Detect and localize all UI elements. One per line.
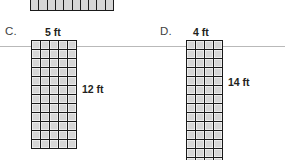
grid-cell — [50, 122, 58, 130]
grid-cell — [81, 0, 88, 10]
grid-cell — [187, 113, 195, 121]
grid-cell — [205, 140, 213, 148]
grid-cell — [41, 95, 49, 103]
height-label-d: 14 ft — [228, 77, 250, 88]
grid-cell — [68, 86, 76, 94]
grid-cell — [205, 59, 213, 67]
grid-cell — [68, 131, 76, 139]
grid-c — [31, 40, 77, 149]
grid-cell — [196, 104, 204, 112]
grid-cell — [196, 131, 204, 139]
grid-cell — [205, 104, 213, 112]
grid-cell — [41, 68, 49, 76]
grid-cell — [89, 0, 96, 10]
grid-cell — [32, 59, 40, 67]
grid-cell — [32, 95, 40, 103]
grid-cell — [50, 95, 58, 103]
grid-cell — [205, 77, 213, 85]
grid-cell — [187, 59, 195, 67]
worksheet-figure: C. 5 ft 12 ft D. 4 ft 14 ft — [0, 0, 285, 160]
grid-cell — [32, 77, 40, 85]
grid-cell — [32, 122, 40, 130]
grid-cell — [41, 86, 49, 94]
grid-cell — [32, 50, 40, 58]
grid-cell — [41, 113, 49, 121]
grid-cell — [41, 104, 49, 112]
grid-cell — [187, 149, 195, 157]
grid-cell — [50, 140, 58, 148]
grid-cell — [50, 41, 58, 49]
grid-cell — [214, 95, 222, 103]
grid-cell — [32, 41, 40, 49]
grid-cell — [214, 131, 222, 139]
grid-cell — [59, 86, 67, 94]
grid-cell — [50, 68, 58, 76]
item-letter-c: C. — [5, 26, 17, 38]
grid-cell — [41, 59, 49, 67]
grid-d — [186, 40, 223, 160]
grid-cell — [214, 113, 222, 121]
grid-cell — [41, 140, 49, 148]
grid-cell — [32, 68, 40, 76]
grid-cell — [187, 68, 195, 76]
grid-cell — [31, 0, 38, 10]
grid-cell — [50, 113, 58, 121]
grid-cell — [187, 50, 195, 58]
grid-cell — [50, 104, 58, 112]
grid-cell — [187, 104, 195, 112]
grid-cell — [41, 122, 49, 130]
grid-cell — [41, 50, 49, 58]
height-label-c: 12 ft — [82, 84, 104, 95]
width-label-d: 4 ft — [193, 27, 209, 38]
grid-cell — [48, 0, 55, 10]
grid-cell — [196, 140, 204, 148]
grid-cell — [56, 0, 63, 10]
grid-cell — [59, 131, 67, 139]
grid-cell — [196, 158, 204, 160]
grid-cell — [214, 77, 222, 85]
grid-cell — [41, 41, 49, 49]
grid-cell — [205, 131, 213, 139]
grid-cell — [196, 95, 204, 103]
grid-cell — [59, 122, 67, 130]
grid-cell — [196, 122, 204, 130]
grid-cell — [68, 59, 76, 67]
grid-cell — [97, 0, 104, 10]
grid-cell — [50, 131, 58, 139]
grid-cell — [50, 59, 58, 67]
grid-cell — [205, 41, 213, 49]
grid-cell — [196, 86, 204, 94]
grid-cell — [50, 77, 58, 85]
grid-cell — [214, 41, 222, 49]
grid-cell — [214, 122, 222, 130]
grid-cell — [106, 0, 113, 10]
grid-cell — [73, 0, 80, 10]
grid-cell — [59, 95, 67, 103]
grid-cell — [205, 50, 213, 58]
grid-cell — [59, 140, 67, 148]
grid-cell — [196, 77, 204, 85]
grid-cell — [64, 0, 71, 10]
grid-cell — [68, 77, 76, 85]
grid-cell — [187, 122, 195, 130]
grid-cell — [68, 41, 76, 49]
grid-cell — [196, 68, 204, 76]
grid-cell — [214, 149, 222, 157]
grid-cell — [59, 77, 67, 85]
grid-cell — [214, 59, 222, 67]
grid-cell — [205, 86, 213, 94]
grid-cell — [187, 41, 195, 49]
grid-cell — [205, 122, 213, 130]
grid-cell — [214, 158, 222, 160]
grid-cell — [196, 50, 204, 58]
grid-cell — [68, 122, 76, 130]
grid-cell — [68, 50, 76, 58]
grid-cell — [187, 140, 195, 148]
grid-cell — [32, 113, 40, 121]
partial-grid-strip — [30, 0, 114, 11]
grid-cell — [59, 104, 67, 112]
grid-cell — [59, 59, 67, 67]
grid-cell — [68, 95, 76, 103]
grid-cell — [187, 86, 195, 94]
grid-cell — [214, 50, 222, 58]
